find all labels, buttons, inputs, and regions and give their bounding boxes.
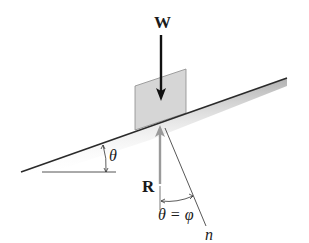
weight-label: W xyxy=(154,14,171,31)
incline-diagram xyxy=(0,0,309,243)
friction-angle-label: θ = φ xyxy=(158,207,194,223)
normal-label: n xyxy=(205,227,213,243)
incline-angle-label: θ xyxy=(109,148,117,164)
friction-angle-arc xyxy=(161,196,193,201)
reaction-label: R xyxy=(142,178,154,195)
